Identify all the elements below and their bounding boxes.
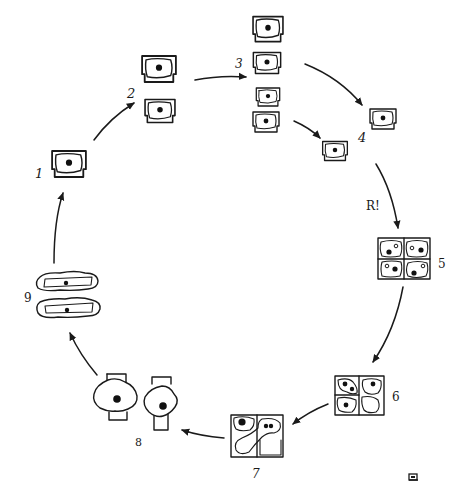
stage-7-cell-br (260, 440, 281, 455)
stage-5-label: 5 (438, 257, 446, 271)
arrow-4-to-5 (376, 164, 398, 228)
stage-7: 7 (231, 415, 283, 481)
stage-2-label: 2 (126, 86, 135, 101)
arrow-7-to-8 (182, 430, 224, 438)
stage-3: 3 (235, 17, 283, 133)
stage-8-label: 8 (135, 436, 142, 449)
arrow-9-to-1 (54, 193, 63, 263)
stage-3-cell-1 (253, 17, 283, 42)
r-annotation: R! (366, 199, 380, 213)
stage-5: 5 (378, 238, 446, 279)
stage-4-label: 4 (357, 130, 366, 145)
stage-3-label: 3 (235, 57, 243, 71)
stage-4: 4 (323, 109, 396, 161)
stage-6-cell-bl (337, 397, 356, 412)
arrow-3-to-4-lower (294, 121, 320, 138)
stage-1-cell (52, 151, 86, 177)
stage-9-label: 9 (24, 291, 32, 305)
stage-1: 1 (35, 151, 86, 181)
stage-5-cell-bl (381, 261, 402, 277)
stage-7-cell-tl (234, 417, 254, 431)
arrow-5-to-6 (373, 287, 403, 362)
stage-1-label: 1 (35, 166, 43, 181)
arrow-2-to-3 (195, 76, 246, 80)
arrow-1-to-2 (94, 103, 134, 140)
cell-cycle-diagram: 1 2 3 4 R! (0, 0, 462, 496)
arrow-8-to-9 (70, 333, 97, 375)
stage-7-label: 7 (252, 467, 260, 481)
stage-2-cell-top (142, 56, 176, 82)
stage-6-label: 6 (392, 390, 400, 404)
stage-9-cell-bottom (37, 298, 100, 318)
stage-3-cell-4 (253, 112, 279, 132)
stage-2-cell-bottom (145, 100, 175, 123)
stage-5-cell-tl (380, 241, 402, 258)
stage-8: 8 (94, 374, 178, 449)
stage-6-cell-tl (338, 379, 357, 394)
stage-8-cell-right (144, 377, 177, 430)
stage-3-cell-3 (256, 88, 279, 106)
stage-9: 9 (24, 272, 100, 318)
stage-4-cell-lower (323, 142, 348, 161)
stage-2: 2 (126, 56, 176, 123)
arrow-6-to-7 (293, 404, 328, 424)
stage-6-cell-br (362, 396, 379, 412)
arrow-3-to-4-upper (305, 64, 362, 105)
stage-3-cell-2 (253, 53, 280, 74)
stage-9-cell-top (36, 272, 98, 291)
stage-4-cell-upper (370, 109, 396, 129)
corner-mark (409, 474, 418, 480)
stage-8-cell-left (94, 374, 137, 420)
stage-5-cell-tr (406, 241, 428, 258)
stage-6-cell-tr (362, 379, 381, 395)
stage-6: 6 (335, 376, 400, 415)
stage-5-cell-br (407, 262, 428, 278)
